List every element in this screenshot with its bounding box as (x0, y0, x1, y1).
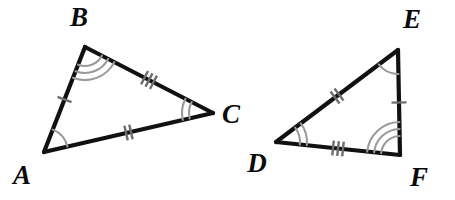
side-ac (44, 113, 213, 152)
vertex-label-d: D (246, 148, 267, 178)
angle-arc (295, 128, 300, 145)
tick-group-side-df (332, 141, 344, 157)
vertex-label-c: C (222, 99, 241, 129)
geometry-diagram: ABC DEF (0, 0, 455, 200)
angle-arc (182, 99, 185, 120)
angle-mark-e (379, 64, 399, 74)
tick-mark (124, 126, 127, 141)
triangle-abc-group: ABC (11, 2, 241, 190)
triangle-def-group: DEF (246, 4, 428, 192)
angle-arc (379, 64, 399, 74)
vertex-label-a: A (11, 160, 31, 190)
angle-arc (53, 130, 68, 147)
angle-mark-a (53, 130, 68, 147)
angle-arc (381, 136, 400, 153)
vertex-label-e: E (402, 4, 421, 34)
angle-arc (301, 123, 307, 145)
tick-mark (342, 142, 344, 157)
tick-mark (332, 141, 334, 156)
vertex-label-f: F (409, 162, 428, 192)
tick-mark (337, 141, 339, 156)
congruent-triangles-figure: ABC DEF (0, 0, 455, 200)
tick-mark (129, 125, 132, 140)
tick-group-side-bc (141, 71, 157, 89)
vertex-label-b: B (69, 2, 88, 32)
angle-mark-f (367, 122, 399, 153)
